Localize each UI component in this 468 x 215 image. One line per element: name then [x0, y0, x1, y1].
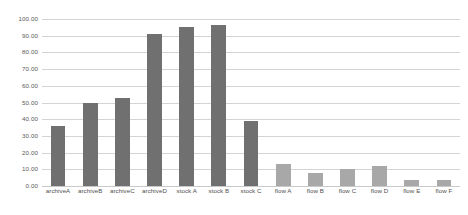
y-axis-tick-label: 60.00: [0, 83, 38, 89]
x-axis-tick-label: flow B: [299, 188, 331, 195]
bar-flow-e[interactable]: [404, 180, 419, 186]
y-axis-tick-label: 30.00: [0, 133, 38, 139]
bar-archived[interactable]: [147, 34, 162, 186]
bar-flow-c[interactable]: [340, 169, 355, 186]
x-axis-tick-label: stock B: [203, 188, 235, 195]
x-axis-tick-label: flow E: [396, 188, 428, 195]
x-axis-tick-label: stock C: [235, 188, 267, 195]
y-axis-tick-label: 10.00: [0, 166, 38, 172]
x-axis-tick-label: flow D: [364, 188, 396, 195]
bar-archivec[interactable]: [115, 98, 130, 187]
y-axis-tick-label: 100.00: [0, 16, 38, 22]
bar-stock-a[interactable]: [179, 27, 194, 186]
bar-stock-c[interactable]: [244, 121, 259, 186]
x-axis-tick-label: archiveD: [138, 188, 170, 195]
bar-archiveb[interactable]: [83, 103, 98, 187]
y-axis-tick-label: 0.00: [0, 183, 38, 189]
x-axis-tick-label: archiveB: [74, 188, 106, 195]
x-axis-tick-label: stock A: [171, 188, 203, 195]
bar-flow-f[interactable]: [437, 180, 452, 186]
bar-flow-b[interactable]: [308, 173, 323, 186]
y-axis: 100.0090.0080.0070.0060.0050.0040.0030.0…: [0, 19, 38, 186]
x-axis-tick-label: archiveA: [42, 188, 74, 195]
bar-stock-b[interactable]: [211, 25, 226, 186]
y-axis-tick-label: 70.00: [0, 66, 38, 72]
x-axis-tick-label: archiveC: [106, 188, 138, 195]
bar-archivea[interactable]: [51, 126, 66, 186]
bar-chart: 100.0090.0080.0070.0060.0050.0040.0030.0…: [0, 0, 468, 215]
y-axis-tick-label: 80.00: [0, 49, 38, 55]
bar-flow-a[interactable]: [276, 164, 291, 186]
bars-layer: [42, 19, 460, 186]
y-axis-tick-label: 40.00: [0, 116, 38, 122]
y-axis-tick-label: 90.00: [0, 33, 38, 39]
y-axis-tick-label: 20.00: [0, 149, 38, 155]
bar-flow-d[interactable]: [372, 166, 387, 186]
x-axis-tick-label: flow C: [331, 188, 363, 195]
y-axis-tick-label: 50.00: [0, 99, 38, 105]
x-axis-tick-label: flow F: [428, 188, 460, 195]
x-axis: archiveAarchiveBarchiveCarchiveDstock As…: [42, 188, 460, 204]
x-axis-tick-label: flow A: [267, 188, 299, 195]
